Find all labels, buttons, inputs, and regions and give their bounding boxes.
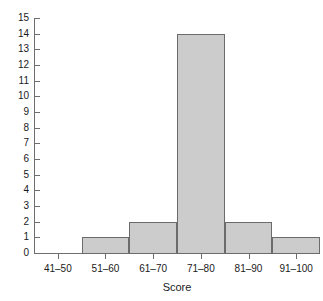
y-axis-tick-label-text: 12: [0, 60, 29, 70]
y-axis-tick-label: 9: [0, 107, 29, 117]
y-axis-tick-label: 11: [0, 76, 29, 86]
y-axis-tick: [35, 96, 40, 97]
y-axis-tick-label-text: 13: [0, 44, 29, 54]
x-axis-tick-label: 81–90: [225, 263, 273, 274]
y-axis-tick-label-text: 0: [0, 248, 29, 258]
y-axis-tick-label: 13: [0, 44, 29, 54]
y-axis-tick: [35, 128, 40, 129]
y-axis-tick-label-text: 1: [0, 232, 29, 242]
y-axis-tick-label: 4: [0, 185, 29, 195]
y-axis-tick-label-text: 3: [0, 201, 29, 211]
y-axis-tick-label: 0: [0, 248, 29, 258]
y-axis-tick-label: 3: [0, 201, 29, 211]
y-axis-tick: [35, 49, 40, 50]
y-axis-tick-label: 5: [0, 170, 29, 180]
y-axis-tick-label: 7: [0, 138, 29, 148]
y-axis-tick: [35, 65, 40, 66]
y-axis-tick-label-text: 9: [0, 107, 29, 117]
histogram-bar: [225, 222, 273, 254]
y-axis-tick-label: 8: [0, 123, 29, 133]
x-axis-tick-label: 51–60: [82, 263, 130, 274]
y-axis-tick: [35, 222, 40, 223]
y-axis-tick-label-text: 4: [0, 185, 29, 195]
y-axis-tick-label-text: 10: [0, 91, 29, 101]
x-axis-tick: [249, 254, 250, 259]
histogram-bar: [177, 34, 225, 254]
x-axis-tick: [201, 254, 202, 259]
y-axis-tick: [35, 34, 40, 35]
y-axis-tick-label-text: 2: [0, 217, 29, 227]
y-axis-tick-label-text: 15: [0, 13, 29, 23]
y-axis-tick: [35, 175, 40, 176]
x-axis-tick: [153, 254, 154, 259]
histogram-bar: [129, 222, 177, 254]
y-axis-tick: [35, 143, 40, 144]
y-axis-tick-label: 2: [0, 217, 29, 227]
y-axis-tick: [35, 81, 40, 82]
y-axis-tick-label: 6: [0, 154, 29, 164]
histogram-bar: [82, 237, 130, 254]
histogram-bar: [272, 237, 320, 254]
x-axis-title: Score: [34, 281, 320, 293]
y-axis-tick-label-text: 7: [0, 138, 29, 148]
y-axis-tick-label-text: 8: [0, 123, 29, 133]
y-axis-line: [34, 18, 35, 254]
y-axis-tick: [35, 112, 40, 113]
x-axis-tick: [105, 254, 106, 259]
y-axis-tick: [35, 206, 40, 207]
y-axis-tick-label: 14: [0, 29, 29, 39]
y-axis-tick-label-text: 11: [0, 76, 29, 86]
y-axis-tick-label-text: 6: [0, 154, 29, 164]
y-axis-tick: [35, 190, 40, 191]
x-axis-tick-label: 61–70: [129, 263, 177, 274]
y-axis-tick-label-text: 5: [0, 170, 29, 180]
y-axis-tick: [35, 237, 40, 238]
x-axis-tick: [296, 254, 297, 259]
histogram-chart: 0123456789101112131415 41–5051–6061–7071…: [0, 0, 323, 301]
x-axis-tick-label: 41–50: [34, 263, 82, 274]
x-axis-tick: [58, 254, 59, 259]
y-axis-tick-label: 1: [0, 232, 29, 242]
y-axis-tick: [35, 253, 40, 254]
y-axis-tick-label: 10: [0, 91, 29, 101]
x-axis-tick-label: 71–80: [177, 263, 225, 274]
x-axis-tick-label: 91–100: [272, 263, 320, 274]
y-axis-tick-label: 15: [0, 13, 29, 23]
y-axis-tick-label: 12: [0, 60, 29, 70]
y-axis-tick: [35, 18, 40, 19]
y-axis-tick-label-text: 14: [0, 29, 29, 39]
y-axis-tick: [35, 159, 40, 160]
